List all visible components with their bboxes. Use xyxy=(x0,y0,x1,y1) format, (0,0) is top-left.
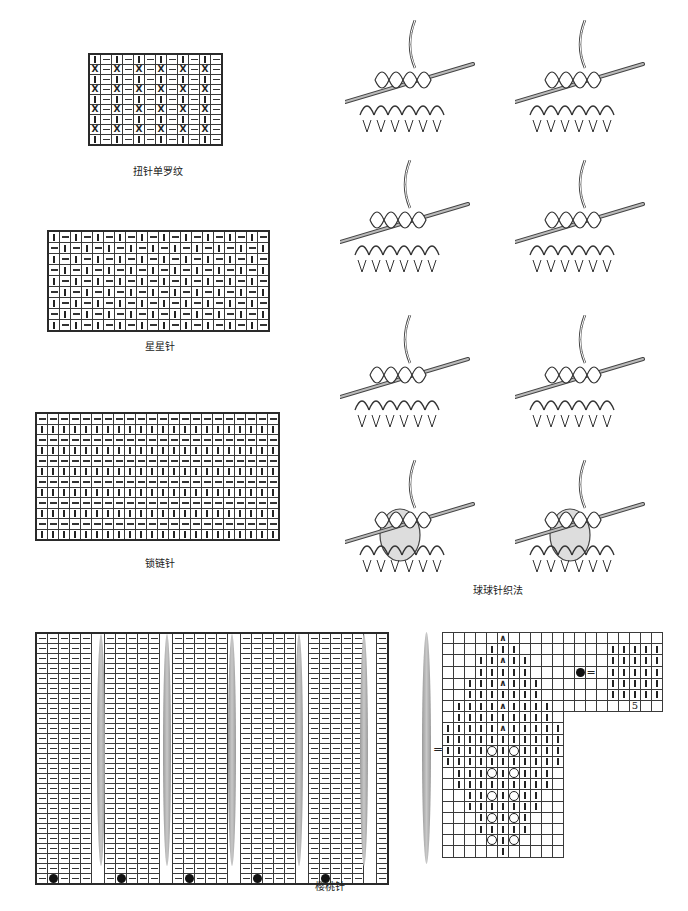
purl-symbol xyxy=(192,276,203,287)
purl-symbol xyxy=(116,714,127,724)
knit-symbol xyxy=(257,487,268,498)
purl-symbol xyxy=(246,498,257,509)
purl-symbol xyxy=(241,814,252,824)
purl-symbol xyxy=(138,754,149,764)
blank-space xyxy=(652,801,663,812)
purl-symbol xyxy=(173,654,184,664)
blank-space xyxy=(652,846,663,857)
purl-symbol xyxy=(241,864,252,874)
purl-symbol xyxy=(136,435,147,446)
purl-symbol xyxy=(274,764,285,774)
knit-symbol xyxy=(191,508,202,519)
purl-symbol xyxy=(206,694,217,704)
knit-symbol xyxy=(498,689,509,700)
purl-symbol xyxy=(81,684,92,694)
purl-symbol xyxy=(93,243,104,254)
empty-cell xyxy=(575,678,586,689)
blank-space xyxy=(564,779,575,790)
blank-space xyxy=(564,712,575,723)
knit-symbol xyxy=(81,445,92,456)
purl-symbol xyxy=(59,784,70,794)
purl-symbol xyxy=(285,864,296,874)
purl-symbol xyxy=(246,519,257,530)
empty-cell xyxy=(520,846,531,857)
purl-symbol xyxy=(309,714,320,724)
purl-symbol xyxy=(184,834,195,844)
purl-symbol xyxy=(149,824,160,834)
purl-symbol xyxy=(148,320,159,332)
blank-space xyxy=(586,768,597,779)
knit-symbol xyxy=(531,779,542,790)
empty-cell xyxy=(542,678,553,689)
knit-symbol xyxy=(498,779,509,790)
empty-cell xyxy=(443,768,454,779)
purl-symbol xyxy=(217,874,228,885)
purl-symbol xyxy=(126,298,137,309)
empty-cell xyxy=(564,644,575,655)
cherry-stitch-chart xyxy=(35,632,389,885)
purl-symbol xyxy=(138,694,149,704)
knit-symbol xyxy=(465,689,476,700)
purl-symbol xyxy=(115,309,126,320)
purl-symbol xyxy=(70,774,81,784)
purl-symbol xyxy=(252,794,263,804)
purl-symbol xyxy=(331,854,342,864)
purl-symbol xyxy=(36,435,48,446)
knit-symbol xyxy=(268,487,280,498)
knit-symbol xyxy=(509,712,520,723)
purl-symbol xyxy=(285,644,296,654)
knit-symbol xyxy=(36,508,48,519)
purl-symbol xyxy=(116,664,127,674)
purl-symbol xyxy=(224,519,235,530)
knit-symbol xyxy=(112,54,123,65)
purl-symbol xyxy=(331,633,342,644)
knit-symbol xyxy=(48,231,60,243)
knit-symbol xyxy=(520,756,531,767)
knit-symbol xyxy=(59,508,70,519)
purl-symbol xyxy=(252,694,263,704)
knit-symbol xyxy=(443,734,454,745)
purl-symbol xyxy=(181,243,192,254)
purl-symbol xyxy=(236,320,247,332)
spindle-column xyxy=(92,864,105,874)
purl-symbol xyxy=(127,794,138,804)
knit-symbol xyxy=(542,745,553,756)
purl-symbol xyxy=(82,276,93,287)
purl-symbol xyxy=(195,874,206,885)
purl-symbol xyxy=(211,125,223,135)
empty-cell xyxy=(575,644,586,655)
purl-symbol xyxy=(147,477,158,488)
purl-symbol xyxy=(59,664,70,674)
purl-symbol xyxy=(241,644,252,654)
purl-symbol xyxy=(320,654,331,664)
knit-symbol xyxy=(92,487,103,498)
purl-symbol xyxy=(309,774,320,784)
purl-symbol xyxy=(36,654,48,664)
knit-symbol xyxy=(158,508,169,519)
purl-symbol xyxy=(252,834,263,844)
purl-symbol xyxy=(138,734,149,744)
blank-space xyxy=(586,824,597,835)
purl-symbol xyxy=(101,125,112,135)
knit-symbol xyxy=(652,689,663,700)
twisted-knit-symbol: X xyxy=(178,125,189,135)
purl-symbol xyxy=(114,413,125,424)
purl-symbol xyxy=(263,814,274,824)
purl-symbol xyxy=(138,824,149,834)
knit-symbol xyxy=(235,445,246,456)
blank-space xyxy=(608,824,619,835)
purl-symbol xyxy=(48,754,59,764)
purl-symbol xyxy=(342,854,353,864)
knit-symbol xyxy=(509,689,520,700)
purl-symbol xyxy=(195,664,206,674)
purl-symbol xyxy=(320,804,331,814)
purl-symbol xyxy=(81,854,92,864)
purl-symbol xyxy=(342,834,353,844)
empty-cell xyxy=(542,655,553,666)
knit-symbol xyxy=(178,115,189,125)
purl-symbol xyxy=(103,435,114,446)
purl-symbol xyxy=(202,413,213,424)
purl-symbol xyxy=(59,435,70,446)
blank-space xyxy=(630,745,641,756)
purl-symbol xyxy=(81,784,92,794)
